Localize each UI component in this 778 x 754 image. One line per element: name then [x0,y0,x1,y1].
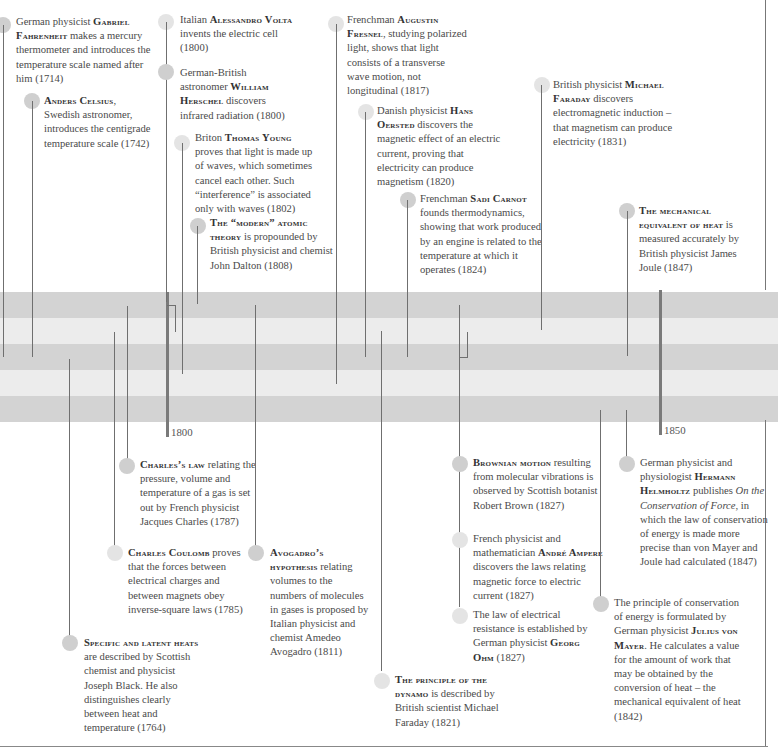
event-ampere: French physicist and mathematician André… [473,532,603,603]
connector-line [407,200,408,357]
connector-line [365,112,366,357]
event-faraday-induction: British physicist Michael Faraday discov… [553,78,673,149]
event-dot [534,77,550,93]
event-ohm: The law of electrical resistance is esta… [473,608,598,665]
event-dot [0,17,11,33]
connector-line [175,305,176,332]
event-mayer: The principle of conservation of energy … [614,596,749,724]
frame-rule-right-top [765,0,766,290]
event-dot [119,458,135,474]
event-herschel: German-British astronomer William Hersch… [180,66,290,123]
frame-rule-bottom [0,746,768,747]
connector-line [627,211,628,356]
connector-line [182,143,183,374]
event-coulomb: Charles Coulomb proves that the forces b… [128,546,253,617]
event-dynamo: The principle of the dynamo is described… [395,673,505,730]
event-charles-law: Charles’s law relating the pressure, vol… [140,458,260,529]
connector-line [127,306,128,466]
event-dot [107,545,123,561]
connector-line [541,85,542,330]
connector-line [336,24,337,384]
event-black: Specific and latent heats are described … [84,636,199,735]
event-brown: Brownian motion resulting from molecular… [473,456,598,513]
connector-line [32,101,33,357]
connector-line [197,226,198,304]
event-dot [158,64,174,80]
connector-bracket [459,357,467,358]
event-dot [62,635,78,651]
connector-line [69,359,70,642]
event-carnot: Frenchman Sadi Carnot founds thermodynam… [420,192,545,277]
event-dot [593,596,609,612]
connector-bracket [167,305,175,306]
year-marker-1850 [659,290,662,435]
event-young: Briton Thomas Young proves that light is… [195,131,315,216]
event-fresnel: Frenchman Augustin Fresnel, studying pol… [347,13,467,98]
year-label-1800: 1800 [171,426,193,438]
connector-line [255,305,256,550]
event-joule: The mechanical equivalent of heat is mea… [639,204,759,275]
event-dot [374,673,390,689]
event-dot [248,545,264,561]
connector-line [114,332,115,552]
event-helmholtz: German physicist and physiologist Herman… [640,456,770,570]
event-oersted: Danish physicist Hans Oersted discovers … [377,104,502,189]
connector-line [381,331,382,671]
event-dot [452,532,468,548]
event-fahrenheit: German physicist Gabriel Fahrenheit make… [16,15,151,86]
connector-line [600,410,601,602]
event-avogadro: Avogadro’s hypothesis relating volumes t… [270,546,370,660]
event-dot [452,608,468,624]
event-dalton: The “modern” atomic theory is propounded… [210,216,340,273]
event-dot [619,456,635,472]
event-dot [400,192,416,208]
year-label-1850: 1850 [664,424,686,436]
connector-line [3,25,4,357]
event-celsius: Anders Celsius, Swedish astronomer, intr… [44,94,154,151]
event-dot [190,218,206,234]
year-marker-1800 [166,292,169,437]
event-volta: Italian Alessandro Volta invents the ele… [180,13,305,56]
event-dot [358,104,374,120]
connector-line [467,332,468,358]
event-dot [452,456,468,472]
